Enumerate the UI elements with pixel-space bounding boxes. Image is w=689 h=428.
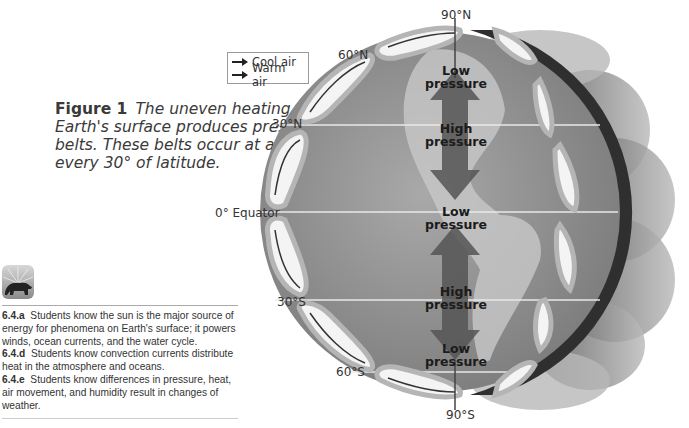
pressure-label-low-60s: Lowpressure xyxy=(416,342,496,368)
lat-label-30n: 30°N xyxy=(272,117,302,131)
figure-label: Figure 1 xyxy=(55,100,127,118)
standard-6-4-a: 6.4.a Students know the sun is the major… xyxy=(2,310,238,348)
lat-label-30s: 30°S xyxy=(277,295,306,309)
california-bear-icon xyxy=(2,265,34,299)
pressure-label-low-equator: Lowpressure xyxy=(416,205,496,231)
pressure-label-high-30n: Highpressure xyxy=(416,122,496,148)
lat-label-equator: 0° Equator xyxy=(215,206,280,220)
lat-label-90n: 90°N xyxy=(441,8,471,22)
lat-label-90s: 90°S xyxy=(446,408,475,422)
standard-6-4-e: 6.4.e Students know differences in press… xyxy=(2,374,238,412)
lat-label-60n: 60°N xyxy=(338,48,368,62)
standards-box: 6.4.a Students know the sun is the major… xyxy=(2,305,238,419)
pressure-label-high-30s: Highpressure xyxy=(416,285,496,311)
pressure-label-low-north-pole: Lowpressure xyxy=(416,64,496,90)
standard-6-4-d: 6.4.d Students know convection currents … xyxy=(2,348,238,374)
lat-label-60s: 60°S xyxy=(336,365,365,379)
